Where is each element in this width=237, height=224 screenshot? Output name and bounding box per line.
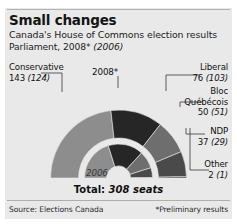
label-liberal: Liberal 76 (103) xyxy=(192,62,228,83)
label-ndp-prev: (29) xyxy=(211,137,228,147)
label-other: Other 2 (1) xyxy=(204,159,228,180)
footnote-preliminary: *Preliminary results xyxy=(155,205,228,214)
label-bloc-value: 50 xyxy=(198,107,209,117)
arc-outer-other xyxy=(158,177,186,178)
label-liberal-prev: (103) xyxy=(206,73,228,83)
total-value: 308 seats xyxy=(109,184,164,195)
label-conservative-prev: (124) xyxy=(28,73,50,83)
label-conservative: Conservative 143 (124) xyxy=(9,62,64,83)
label-bloc-party2: Québécois xyxy=(184,97,228,107)
label-other-prev: (1) xyxy=(216,170,228,180)
label-ndp-party: NDP xyxy=(210,126,228,136)
label-bloc-prev: (51) xyxy=(211,107,228,117)
card-edge-bottom xyxy=(0,219,237,224)
label-liberal-party: Liberal xyxy=(200,62,228,72)
label-bloc-party: Bloc xyxy=(210,86,228,96)
label-other-party: Other xyxy=(204,159,228,169)
divider-bottom xyxy=(7,200,230,201)
label-ndp: NDP 37 (29) xyxy=(198,126,228,147)
label-ndp-value: 37 xyxy=(198,137,209,147)
parliament-current: Parliament, 2008* xyxy=(9,41,90,52)
label-liberal-value: 76 xyxy=(192,73,203,83)
divider-top xyxy=(7,9,230,10)
label-ring-inner: 2006 xyxy=(86,168,108,179)
label-bloc: Bloc Québécois 50 (51) xyxy=(184,86,228,118)
label-conservative-party: Conservative xyxy=(9,62,64,72)
source-credit: Source: Elections Canada xyxy=(9,205,103,214)
infographic-card: Small changes Canada's House of Commons … xyxy=(0,0,237,224)
label-other-value: 2 xyxy=(208,170,213,180)
page-subtitle: Canada's House of Commons election resul… xyxy=(9,29,217,40)
parliament-previous: (2006) xyxy=(93,41,123,52)
label-conservative-value: 143 xyxy=(9,73,25,83)
total-label: Total: xyxy=(74,184,105,195)
total-seats-line: Total: 308 seats xyxy=(0,184,237,195)
card-edge-top xyxy=(0,0,237,8)
page-title: Small changes xyxy=(9,12,116,28)
label-ring-outer: 2008* xyxy=(92,67,118,78)
parliament-line: Parliament, 2008* (2006) xyxy=(9,41,123,52)
